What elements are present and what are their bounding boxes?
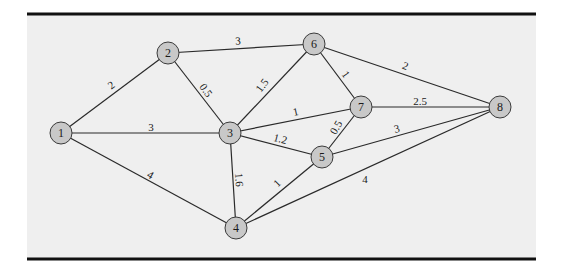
node-label: 2: [165, 46, 171, 60]
node-8: 8: [489, 96, 511, 118]
node-6: 6: [303, 33, 325, 55]
node-4: 4: [225, 217, 247, 239]
node-label: 3: [227, 126, 233, 140]
node-label: 7: [358, 100, 364, 114]
edge-weight-label: 3: [148, 121, 154, 133]
node-label: 8: [497, 100, 503, 114]
node-label: 1: [58, 126, 64, 140]
node-2: 2: [157, 42, 179, 64]
node-7: 7: [350, 96, 372, 118]
edge-weight-label: 4: [362, 173, 368, 185]
node-1: 1: [50, 122, 72, 144]
node-5: 5: [311, 146, 333, 168]
node-3: 3: [219, 122, 241, 144]
network-diagram: 2340.531.511.21.6120.52.5314 12345678: [0, 0, 563, 269]
node-label: 4: [233, 221, 239, 235]
node-label: 6: [311, 37, 317, 51]
edge-weight-label: 1.6: [233, 173, 246, 188]
edge-weight-label: 2.5: [413, 95, 427, 107]
node-label: 5: [319, 150, 325, 164]
